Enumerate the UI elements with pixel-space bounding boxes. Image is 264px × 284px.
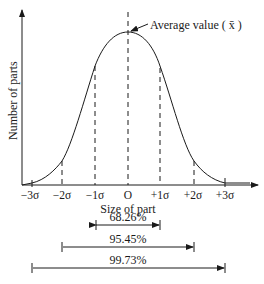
tick-plus-1sigma: +1σ (151, 190, 169, 202)
range-99-label: 99.73% (110, 254, 147, 266)
average-arrow (131, 24, 148, 31)
tick-minus-2sigma: −2σ (53, 190, 71, 202)
tick-origin: O (124, 190, 132, 202)
bell-curve (22, 32, 250, 185)
tick-plus-2sigma: +2σ (184, 190, 202, 202)
tick-plus-3sigma: +3σ (216, 190, 234, 202)
tick-minus-3sigma: −3σ (21, 190, 39, 202)
sigma-lines (62, 12, 194, 185)
y-axis-label: Number of parts (7, 61, 19, 140)
average-value-label: Average value ( x̄ ) (150, 19, 242, 31)
range-68-label: 68.26% (110, 211, 147, 223)
range-95-label: 95.45% (110, 233, 147, 245)
tick-minus-1sigma: −1σ (86, 190, 104, 202)
